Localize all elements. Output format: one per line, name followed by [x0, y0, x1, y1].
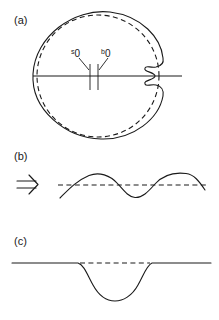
panel-b-solid-wave	[60, 173, 205, 198]
panel-c-label: (c)	[14, 235, 27, 247]
panel-a-label-s0-base: 0	[75, 48, 81, 59]
panel-a-label-s0: s0	[71, 48, 81, 60]
panel-a-leader-s0	[79, 58, 89, 70]
panel-a-label-b0: b0	[101, 48, 111, 60]
panel-a: (a) s0 b0	[14, 12, 182, 139]
scientific-figure: (a) s0 b0 (b)	[0, 0, 219, 320]
double-arrow-right-icon	[17, 175, 38, 194]
panel-a-label: (a)	[14, 14, 27, 26]
panel-a-leader-b0	[99, 58, 108, 70]
panel-c-solid-profile	[12, 263, 211, 301]
panel-b: (b)	[14, 150, 208, 198]
panel-c: (c)	[12, 235, 211, 301]
panel-b-label: (b)	[14, 150, 27, 162]
figure-canvas: (a) s0 b0 (b)	[0, 0, 219, 320]
panel-a-label-b0-base: 0	[105, 48, 111, 59]
